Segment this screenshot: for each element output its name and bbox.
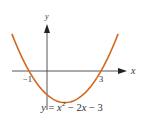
x-axis-arrow-icon [118, 68, 127, 74]
y-axis-arrow-icon [44, 24, 50, 33]
eq-y: y [41, 102, 46, 113]
x-tick-label-3: 3 [99, 74, 103, 84]
x-tick-label-neg1: −1 [23, 74, 32, 84]
eq-minus-2: − 2 [65, 102, 81, 113]
equation-caption: y = x2 − 2x − 3 [0, 100, 144, 113]
eq-equals: = [49, 102, 55, 113]
y-axis-label: y [44, 12, 49, 21]
x-axis-label: x [130, 65, 136, 76]
parabola-curve [12, 34, 118, 103]
eq-minus-3: − 3 [86, 102, 102, 113]
